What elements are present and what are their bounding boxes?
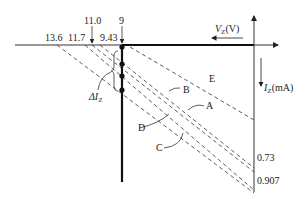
operating-point-2 xyxy=(119,61,124,66)
operating-point-1 xyxy=(119,44,124,49)
load-line-c xyxy=(57,45,254,193)
tick-label-0-907: 0.907 xyxy=(257,175,280,186)
label-b: B xyxy=(183,84,190,95)
tick-label-9: 9 xyxy=(119,15,124,26)
zener-load-line-diagram: 13.6 11.7 11.0 9.43 9 0.73 0.907 VZ(V) I… xyxy=(0,0,308,199)
delta-iz-brace xyxy=(111,51,118,91)
tick-label-13-6: 13.6 xyxy=(45,32,63,43)
load-line-a xyxy=(92,45,254,172)
delta-iz-label: ΔIZ xyxy=(88,91,102,104)
tick-label-11-7: 11.7 xyxy=(68,32,85,43)
operating-point-4 xyxy=(119,87,124,92)
voltage-axis-label: VZ(V) xyxy=(215,23,239,36)
label-c: C xyxy=(156,142,163,153)
label-c-leader xyxy=(164,133,183,148)
load-line-d xyxy=(85,45,254,190)
tick-label-11-0: 11.0 xyxy=(84,15,101,26)
label-e: E xyxy=(209,73,215,84)
operating-point-3 xyxy=(119,73,124,78)
label-b-leader xyxy=(169,88,180,91)
current-axis-label: IZ(mA) xyxy=(263,82,293,95)
load-line-e xyxy=(130,47,254,120)
label-a: A xyxy=(206,100,214,111)
label-a-leader xyxy=(188,105,204,110)
tick-label-0-73: 0.73 xyxy=(257,152,275,163)
tick-label-9-43: 9.43 xyxy=(100,32,118,43)
label-d: D xyxy=(138,122,145,133)
